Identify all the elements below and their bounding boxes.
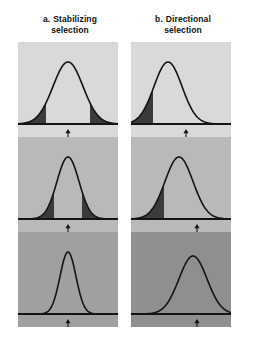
selection-diagram: a.Stabilizing selection b.Directional se… [0, 0, 254, 348]
panel-b-title-line1: Directional [166, 14, 211, 24]
panel-a-generation-2 [18, 137, 118, 232]
panel-a-label: a. [43, 14, 50, 24]
panel-b-label: b. [155, 14, 163, 24]
panel-a-generation-3 [18, 232, 118, 327]
panel-b-generation-2 [131, 137, 231, 232]
row-background [18, 232, 118, 327]
panel-b-generation-3 [131, 232, 231, 327]
panel-a-title-line1: Stabilizing [53, 14, 97, 24]
panel-b-caption: b.Directional selection [131, 14, 235, 36]
panel-a-generation-1 [18, 42, 118, 137]
panel-stabilizing-selection [18, 42, 118, 332]
panel-a-caption: a.Stabilizing selection [18, 14, 122, 36]
row-background [18, 137, 118, 232]
panel-a-title-line2: selection [18, 25, 122, 36]
panel-b-generation-1 [131, 42, 231, 137]
panel-directional-selection [131, 42, 231, 332]
panel-b-title-line2: selection [131, 25, 235, 36]
row-background [131, 232, 231, 327]
